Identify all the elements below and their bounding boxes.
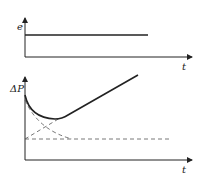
response-curve (25, 75, 138, 119)
bottom-y-label: ΔP (10, 84, 24, 94)
decay-component-dashed (25, 100, 72, 139)
bottom-x-label: t (182, 165, 186, 175)
bottom-chart (25, 75, 192, 160)
top-chart (25, 18, 192, 57)
top-y-label: e (17, 22, 23, 32)
ramp-component-dashed (25, 118, 60, 139)
diagram-canvas (0, 0, 204, 185)
top-x-label: t (182, 62, 186, 72)
